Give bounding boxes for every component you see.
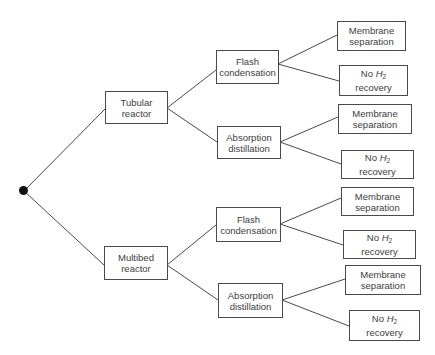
h-symbol: H — [376, 68, 383, 79]
node-label-line2: separation — [355, 202, 399, 213]
node-label-line1: Multibed — [118, 252, 154, 263]
node-flash-condensation-1: Flash condensation — [216, 50, 279, 84]
node-label-line2: separation — [349, 36, 393, 47]
edge-absorb1-membrane — [280, 117, 338, 142]
node-label-line1: No H2 — [372, 313, 397, 327]
node-membrane-separation-2: Membrane separation — [338, 104, 412, 134]
node-absorption-distillation-1: Absorption distillation — [217, 126, 281, 159]
edge-multibed-flash — [167, 225, 216, 265]
node-label-line2: distillation — [228, 143, 270, 154]
node-label-line2: reactor — [121, 263, 151, 274]
edge-absorb1-noh2 — [280, 142, 341, 164]
label-prefix: No — [372, 313, 387, 324]
edge-flash1-noh2 — [278, 64, 339, 81]
node-multibed-reactor: Multibed reactor — [104, 246, 168, 280]
node-label-line1: Flash — [237, 214, 260, 225]
edge-flash2-membrane — [280, 198, 341, 224]
node-label-line2: condensation — [219, 67, 276, 78]
subscript-2: 2 — [383, 73, 387, 80]
node-label-line1: Membrane — [360, 269, 405, 280]
node-label-line2: separation — [361, 280, 405, 291]
node-no-h2-recovery-2: No H2 recovery — [341, 150, 414, 179]
h2-symbol: H2 — [382, 232, 393, 243]
node-label-line1: Absorption — [228, 290, 273, 301]
edge-multibed-absorption — [167, 265, 218, 300]
node-label-line2: recovery — [366, 327, 402, 338]
node-label-line1: Membrane — [352, 108, 397, 119]
edge-flash1-membrane — [278, 35, 337, 64]
h-symbol: H — [387, 313, 394, 324]
decision-tree-diagram: Tubular reactor Multibed reactor Flash c… — [0, 0, 435, 355]
node-label-line2: recovery — [361, 246, 397, 257]
node-tubular-reactor: Tubular reactor — [105, 91, 168, 124]
node-label-line1: Membrane — [355, 191, 400, 202]
h-symbol: H — [382, 232, 389, 243]
label-prefix: No — [365, 152, 380, 163]
edge-absorb2-membrane — [282, 279, 345, 300]
node-label-line1: No H2 — [361, 68, 386, 82]
node-membrane-separation-3: Membrane separation — [341, 187, 414, 216]
node-label-line1: No H2 — [365, 152, 390, 166]
node-label-line1: Flash — [236, 56, 259, 67]
subscript-2: 2 — [394, 318, 398, 325]
edge-absorb2-noh2 — [282, 300, 349, 326]
edge-tubular-flash — [167, 70, 216, 108]
node-no-h2-recovery-4: No H2 recovery — [349, 310, 420, 341]
h2-symbol: H2 — [387, 313, 398, 324]
node-label-line1: Absorption — [226, 132, 271, 143]
subscript-2: 2 — [389, 237, 393, 244]
node-label-line2: condensation — [220, 225, 277, 236]
label-prefix: No — [361, 68, 376, 79]
node-no-h2-recovery-1: No H2 recovery — [339, 65, 408, 96]
node-label-line2: recovery — [355, 82, 391, 93]
h-symbol: H — [380, 152, 387, 163]
node-label-line1: Membrane — [349, 25, 394, 36]
edge-flash2-noh2 — [280, 224, 343, 245]
node-flash-condensation-2: Flash condensation — [216, 207, 281, 242]
edge-root-tubular — [24, 109, 105, 191]
node-label-line2: distillation — [230, 301, 272, 312]
h2-symbol: H2 — [380, 152, 391, 163]
node-label-line1: No H2 — [367, 232, 392, 246]
label-prefix: No — [367, 232, 382, 243]
subscript-2: 2 — [387, 157, 391, 164]
node-label-line2: reactor — [122, 108, 152, 119]
node-label-line2: separation — [353, 119, 397, 130]
node-label-line1: Tubular — [121, 97, 153, 108]
node-no-h2-recovery-3: No H2 recovery — [343, 230, 416, 259]
root-decision-node — [19, 186, 28, 195]
node-label-line2: recovery — [359, 166, 395, 177]
edge-root-multibed — [24, 191, 104, 265]
edge-tubular-absorption — [167, 108, 217, 142]
node-absorption-distillation-2: Absorption distillation — [218, 283, 283, 318]
node-membrane-separation-1: Membrane separation — [337, 21, 406, 51]
node-membrane-separation-4: Membrane separation — [345, 265, 421, 295]
h2-symbol: H2 — [376, 68, 387, 79]
